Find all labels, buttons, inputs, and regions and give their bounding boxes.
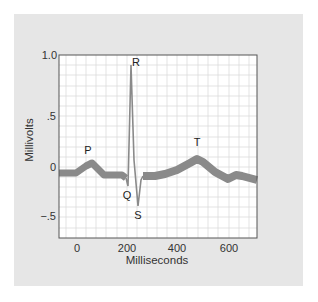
wave-label-q: Q — [123, 189, 132, 201]
x-tick-label: 400 — [168, 242, 186, 254]
y-tick-label: 0 — [50, 161, 56, 173]
y-tick-label: −.5 — [40, 210, 56, 222]
wave-label-s: S — [134, 209, 141, 221]
y-tick-label: .5 — [47, 110, 56, 122]
x-tick-label: 600 — [220, 242, 238, 254]
wave-label-r: R — [132, 56, 140, 68]
wave-label-p: P — [84, 144, 91, 156]
wave-label-t: T — [194, 136, 201, 148]
x-tick-label: 0 — [74, 242, 80, 254]
x-tick-label: 200 — [118, 242, 136, 254]
y-axis-label: Millivolts — [23, 118, 35, 162]
ecg-chart: 1.0 .5 0 −.5 0 200 400 600 Milliseconds … — [0, 0, 318, 302]
y-tick-label: 1.0 — [42, 49, 57, 61]
x-axis-label: Milliseconds — [126, 254, 189, 266]
